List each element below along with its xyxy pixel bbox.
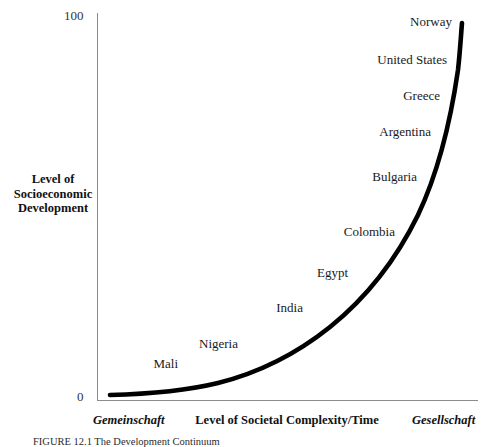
country-label-text: Nigeria bbox=[199, 336, 238, 351]
country-label-text: Colombia bbox=[344, 224, 395, 239]
country-label-egypt: Egypt bbox=[0, 265, 348, 281]
country-label-greece: Greece bbox=[0, 88, 440, 104]
country-label-united-states: United States bbox=[0, 52, 447, 68]
country-label-text: Egypt bbox=[317, 265, 348, 280]
country-label-mali: Mali bbox=[0, 356, 178, 372]
country-label-text: Bulgaria bbox=[372, 169, 417, 184]
country-label-text: Argentina bbox=[379, 124, 431, 139]
country-label-text: India bbox=[276, 300, 303, 315]
figure-caption: FIGURE 12.1 The Development Continuum bbox=[33, 436, 473, 447]
country-label-text: Mali bbox=[153, 356, 178, 371]
country-label-text: Norway bbox=[410, 14, 452, 29]
country-label-nigeria: Nigeria bbox=[0, 336, 238, 352]
country-label-text: Greece bbox=[403, 88, 440, 103]
country-label-argentina: Argentina bbox=[0, 124, 431, 140]
country-label-norway: Norway bbox=[0, 14, 452, 30]
country-label-colombia: Colombia bbox=[0, 224, 395, 240]
figure-container: 100 0 Level of Socioeconomic Development… bbox=[0, 0, 492, 447]
country-label-text: United States bbox=[377, 52, 447, 67]
country-label-india: India bbox=[0, 300, 303, 316]
country-label-bulgaria: Bulgaria bbox=[0, 169, 417, 185]
